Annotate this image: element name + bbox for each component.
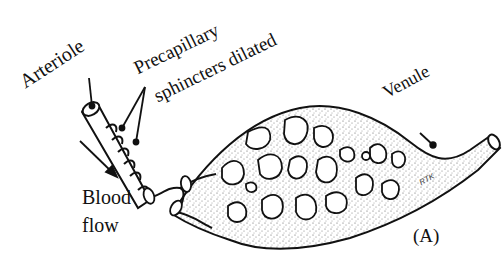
capillary-network — [172, 106, 500, 249]
blood-flow-label-line2: flow — [82, 214, 119, 237]
capillary-bed-diagram: Arteriole Precapillary sphincters dilate… — [0, 0, 503, 277]
blood-flow-label-line1: Blood — [82, 186, 131, 209]
panel-label: (A) — [413, 225, 439, 247]
